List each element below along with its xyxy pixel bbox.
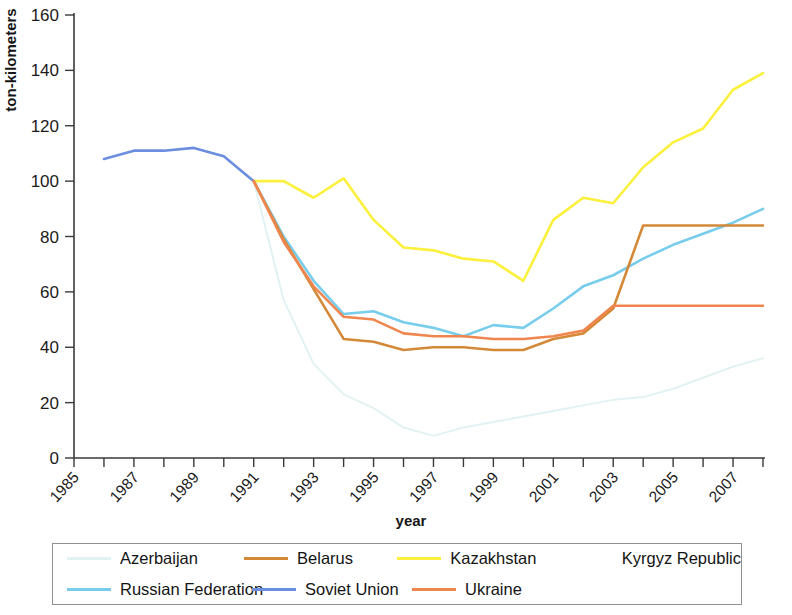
legend-row-bottom: Russian Federation Soviet Union Ukraine [53, 574, 741, 605]
legend-item-russian-federation: Russian Federation [67, 581, 252, 598]
legend-label-kyrgyz-republic: Kyrgyz Republic [622, 550, 741, 567]
y-tick-label: 120 [31, 117, 59, 136]
y-tick-label: 160 [31, 6, 59, 25]
legend-swatch-kazakhstan [397, 557, 441, 560]
series-line-kazakhstan [254, 73, 763, 281]
x-tick-label: 1989 [166, 468, 202, 505]
series-line-russian-federation [254, 181, 763, 336]
legend-swatch-azerbaijan [67, 557, 111, 560]
y-tick-label: 140 [31, 61, 59, 80]
y-tick-label: 0 [50, 449, 59, 468]
line-chart-plot: 0204060801001201401601985198719891991199… [0, 0, 792, 545]
legend-item-ukraine: Ukraine [412, 581, 587, 598]
series-line-azerbaijan [254, 181, 763, 436]
legend-swatch-ukraine [412, 588, 456, 591]
x-tick-label: 2007 [705, 468, 741, 505]
x-tick-label: 1993 [286, 468, 322, 505]
x-axis-label: year [396, 512, 427, 529]
legend-item-kazakhstan: Kazakhstan [397, 550, 565, 567]
legend-label-belarus: Belarus [297, 550, 353, 567]
legend-item-soviet-union: Soviet Union [252, 581, 412, 598]
series-line-belarus [254, 181, 763, 350]
x-tick-label: 1995 [346, 468, 382, 505]
legend-item-azerbaijan: Azerbaijan [67, 550, 244, 567]
x-tick-label: 2001 [526, 468, 562, 505]
legend-swatch-russian-federation [67, 588, 111, 591]
x-tick-label: 2003 [585, 468, 621, 505]
legend-swatch-kyrgyz-republic [569, 557, 613, 560]
chart-legend: Azerbaijan Belarus Kazakhstan Kyrgyz Rep… [52, 543, 742, 605]
y-tick-label: 100 [31, 172, 59, 191]
y-tick-label: 60 [40, 283, 59, 302]
y-tick-label: 40 [40, 338, 59, 357]
legend-item-belarus: Belarus [244, 550, 397, 567]
x-tick-label: 1991 [226, 468, 262, 505]
legend-row-top: Azerbaijan Belarus Kazakhstan Kyrgyz Rep… [53, 543, 741, 574]
legend-swatch-belarus [244, 557, 288, 560]
legend-label-ukraine: Ukraine [465, 581, 522, 598]
x-tick-label: 1985 [46, 468, 82, 505]
legend-swatch-soviet-union [252, 588, 296, 591]
x-tick-label: 1987 [106, 468, 142, 505]
legend-label-soviet-union: Soviet Union [305, 581, 399, 598]
legend-item-kyrgyz-republic: Kyrgyz Republic [569, 550, 741, 567]
x-axis-label-wrap: year [0, 512, 792, 529]
x-tick-label: 2005 [645, 468, 681, 505]
chart-figure: ton-kilometers 0204060801001201401601985… [0, 0, 792, 615]
legend-label-kazakhstan: Kazakhstan [450, 550, 536, 567]
y-tick-label: 20 [40, 394, 59, 413]
x-tick-label: 1997 [406, 468, 442, 505]
legend-label-azerbaijan: Azerbaijan [120, 550, 198, 567]
series-line-soviet-union [104, 148, 254, 181]
legend-label-russian-federation: Russian Federation [120, 581, 263, 598]
x-tick-label: 1999 [466, 468, 502, 505]
y-tick-label: 80 [40, 228, 59, 247]
